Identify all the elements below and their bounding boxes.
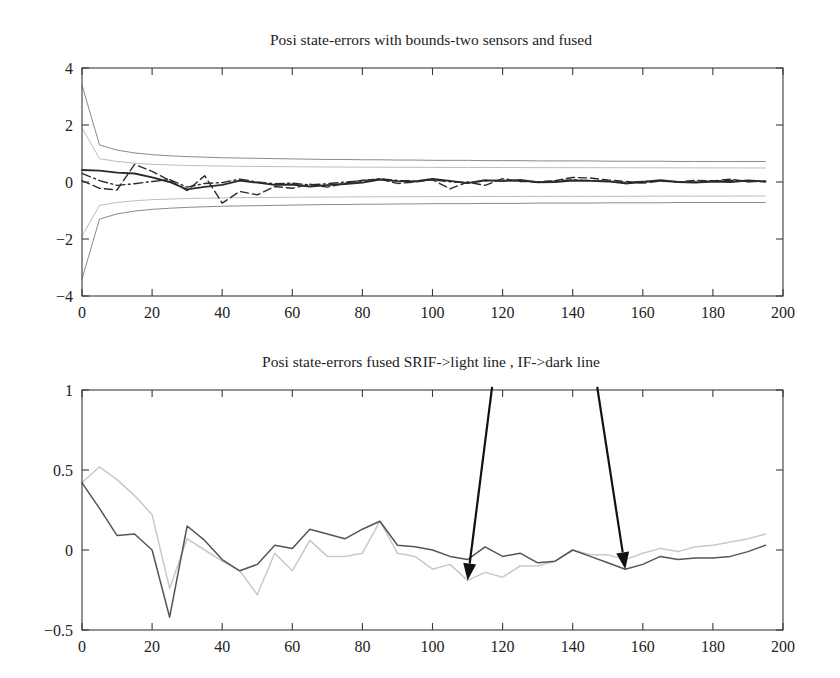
series-line-3: [82, 196, 765, 236]
chart-figure: Posi state-errors with bounds-two sensor…: [0, 0, 840, 678]
x-tick-label: 0: [78, 304, 86, 321]
x-tick-label: 160: [631, 638, 655, 655]
y-tick-label: 0: [65, 542, 73, 559]
series-line-1: [82, 483, 765, 617]
top-plot-y-tick-labels: −4−2024: [56, 60, 73, 305]
bottom-plot-axes-box: [82, 390, 783, 630]
x-tick-label: 100: [421, 304, 445, 321]
x-tick-label: 20: [144, 638, 160, 655]
y-tick-label: 2: [65, 117, 73, 134]
x-tick-label: 40: [214, 304, 230, 321]
y-tick-label: −4: [56, 288, 73, 305]
x-tick-label: 200: [771, 304, 795, 321]
series-line-0: [82, 467, 765, 595]
x-tick-label: 160: [631, 304, 655, 321]
y-tick-label: 0.5: [53, 462, 73, 479]
top-plot-traces: [82, 85, 765, 279]
x-tick-label: 20: [144, 304, 160, 321]
series-line-2: [82, 128, 765, 168]
top-plot-title: Posi state-errors with bounds-two sensor…: [270, 31, 592, 48]
x-tick-label: 100: [421, 638, 445, 655]
x-tick-label: 40: [214, 638, 230, 655]
series-line-5: [82, 164, 765, 203]
bottom-plot-x-tick-labels: 020406080100120140160180200: [78, 638, 795, 655]
x-tick-label: 200: [771, 638, 795, 655]
x-tick-label: 80: [354, 304, 370, 321]
x-tick-label: 0: [78, 638, 86, 655]
bottom-plot: Posi state-errors fused SRIF->light line…: [44, 353, 795, 655]
x-tick-label: 120: [491, 304, 515, 321]
bottom-plot-traces: [82, 467, 765, 617]
figure-root: Posi state-errors with bounds-two sensor…: [0, 0, 840, 678]
x-tick-label: 60: [284, 638, 300, 655]
x-tick-label: 80: [354, 638, 370, 655]
series-line-4: [82, 170, 765, 189]
y-tick-label: 4: [65, 60, 73, 77]
y-tick-label: 0: [65, 174, 73, 191]
bottom-plot-title: Posi state-errors fused SRIF->light line…: [262, 353, 600, 370]
y-tick-label: −0.5: [44, 622, 73, 639]
top-plot-x-tick-labels: 020406080100120140160180200: [78, 304, 795, 321]
top-plot: Posi state-errors with bounds-two sensor…: [56, 31, 795, 321]
y-tick-label: −2: [56, 231, 73, 248]
bottom-plot-annotation-arrows: [463, 387, 629, 581]
series-line-1: [82, 203, 765, 279]
arrow-to-dark-line-shaft: [597, 387, 623, 553]
bottom-plot-tickmarks: [82, 390, 783, 630]
x-tick-label: 140: [561, 638, 585, 655]
y-tick-label: 1: [65, 382, 73, 399]
arrow-to-light-line-shaft: [470, 387, 492, 564]
x-tick-label: 180: [701, 304, 725, 321]
x-tick-label: 120: [491, 638, 515, 655]
series-line-0: [82, 85, 765, 161]
x-tick-label: 60: [284, 304, 300, 321]
bottom-plot-y-tick-labels: −0.500.51: [44, 382, 73, 639]
x-tick-label: 140: [561, 304, 585, 321]
x-tick-label: 180: [701, 638, 725, 655]
